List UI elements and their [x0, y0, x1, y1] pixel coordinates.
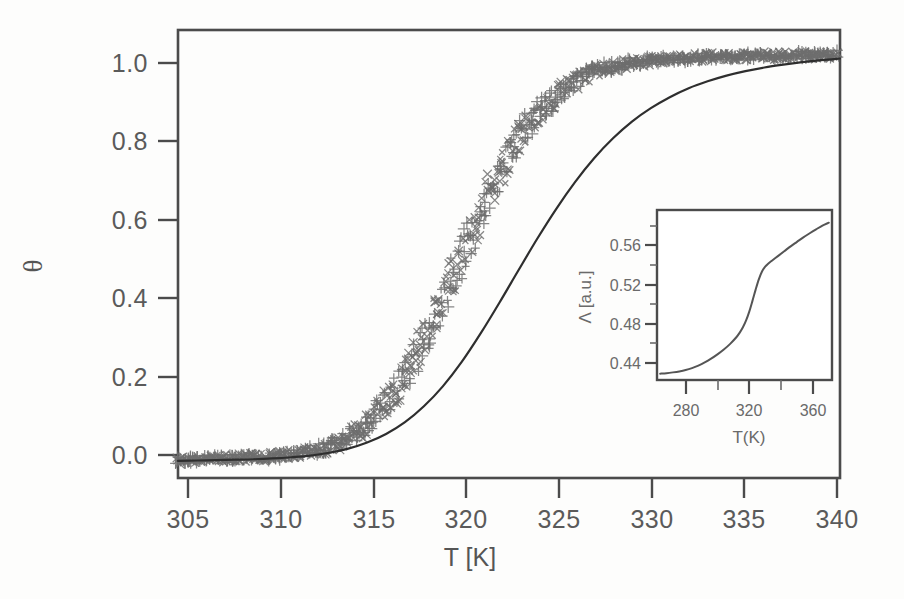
inset-x-tick-label: 320 [736, 402, 763, 419]
y-tick-label: 0.4 [112, 284, 148, 312]
inset-x-tick-label: 280 [673, 402, 700, 419]
x-axis-ticks [188, 478, 837, 498]
inset-x-ticks [686, 380, 813, 394]
x-tick-label: 335 [722, 505, 765, 533]
inset-x-tick-label: 360 [800, 402, 827, 419]
y-tick-label: 0.0 [112, 441, 148, 469]
x-axis-tick-labels: 305 310 315 320 325 330 335 340 [166, 505, 858, 533]
y-tick-label: 0.6 [112, 206, 148, 234]
x-tick-label: 305 [166, 505, 209, 533]
y-tick-label: 0.2 [112, 363, 148, 391]
y-tick-label: 1.0 [112, 49, 148, 77]
x-tick-label: 330 [630, 505, 673, 533]
x-axis-label: T [K] [444, 543, 496, 571]
x-tick-label: 320 [444, 505, 487, 533]
inset-y-axis-label: Λ [a.u.] [576, 271, 595, 324]
x-tick-label: 325 [537, 505, 580, 533]
inset-x-axis-label: T(K) [732, 428, 765, 447]
inset-plot: 0.56 0.52 0.48 0.44 280 320 360 T(K) Λ [… [576, 210, 832, 447]
inset-x-tick-labels: 280 320 360 [673, 402, 827, 419]
y-axis-tick-labels: 1.0 0.8 0.6 0.4 0.2 0.0 [112, 49, 148, 469]
y-tick-label: 0.8 [112, 127, 148, 155]
inset-y-tick-labels: 0.56 0.52 0.48 0.44 [610, 237, 641, 372]
figure-canvas: 305 310 315 320 325 330 335 340 1.0 0.8 … [0, 0, 904, 599]
inset-y-tick-label: 0.48 [610, 316, 641, 333]
x-tick-label: 310 [259, 505, 302, 533]
inset-y-ticks [645, 226, 657, 363]
inset-y-tick-label: 0.44 [610, 355, 641, 372]
inset-y-tick-label: 0.52 [610, 277, 641, 294]
x-tick-label: 340 [815, 505, 858, 533]
y-axis-label: θ [18, 260, 48, 273]
plot-svg: 305 310 315 320 325 330 335 340 1.0 0.8 … [0, 0, 904, 599]
inset-y-tick-label: 0.56 [610, 237, 641, 254]
y-axis-ticks [158, 63, 178, 455]
x-tick-label: 315 [352, 505, 395, 533]
